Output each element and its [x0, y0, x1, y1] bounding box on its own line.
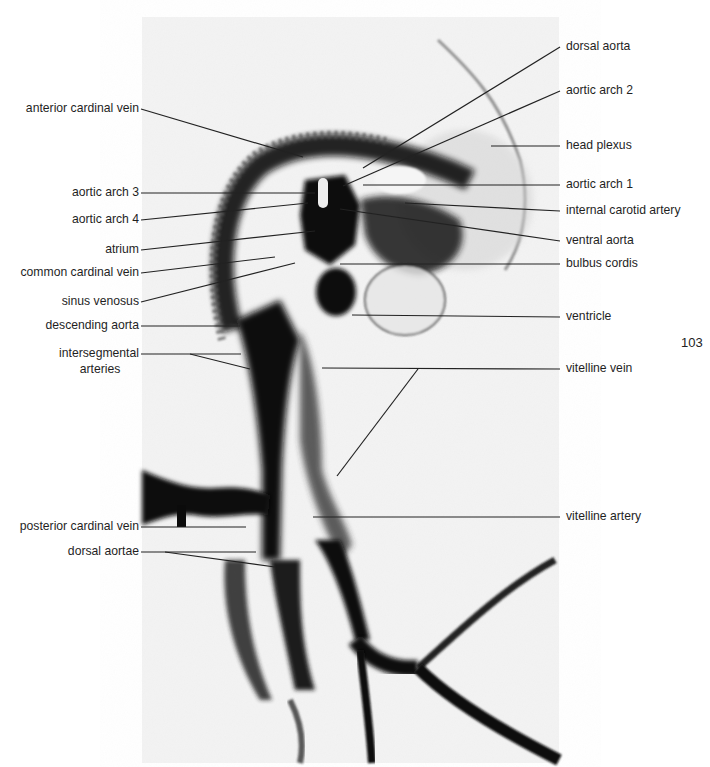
label-aortic-arch-2: aortic arch 2	[566, 83, 633, 97]
label-anterior-cardinal-vein: anterior cardinal vein	[26, 101, 139, 115]
label-ventricle: ventricle	[566, 309, 611, 323]
label-ventral-aorta: ventral aorta	[566, 233, 634, 247]
label-dorsal-aorta: dorsal aorta	[566, 39, 630, 53]
label-aortic-arch-1: aortic arch 1	[566, 177, 633, 191]
label-intersegmental-arteries-line2: arteries	[70, 362, 130, 376]
label-head-plexus: head plexus	[566, 138, 632, 152]
label-intersegmental-arteries: intersegmental	[59, 346, 139, 360]
label-vitelline-artery: vitelline artery	[566, 509, 641, 523]
label-internal-carotid-artery: internal carotid artery	[566, 203, 680, 217]
embryo-photomicrograph	[0, 0, 710, 767]
label-bulbus-cordis: bulbus cordis	[566, 256, 638, 270]
label-common-cardinal-vein: common cardinal vein	[20, 265, 139, 279]
label-dorsal-aortae: dorsal aortae	[68, 544, 139, 558]
label-aortic-arch-3: aortic arch 3	[72, 185, 139, 199]
label-sinus-venosus: sinus venosus	[62, 294, 139, 308]
label-aortic-arch-4: aortic arch 4	[72, 212, 139, 226]
page-number: 103	[681, 335, 703, 350]
label-posterior-cardinal-vein: posterior cardinal vein	[20, 519, 139, 533]
label-atrium: atrium	[105, 242, 139, 256]
label-descending-aorta: descending aorta	[45, 318, 139, 332]
label-vitelline-vein: vitelline vein	[566, 361, 632, 375]
